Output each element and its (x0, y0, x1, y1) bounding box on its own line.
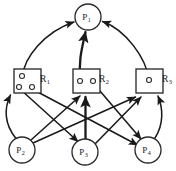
graph-canvas: R1R2R3 P1P2P3P4 (0, 0, 176, 171)
edge-p4-r3 (155, 96, 162, 138)
resources-layer: R1R2R3 (14, 69, 172, 93)
resource-node-r1: R1 (14, 69, 50, 93)
instance-dot (78, 79, 83, 84)
resource-node-r3: R3 (136, 69, 172, 93)
process-node-p1: P1 (75, 4, 101, 30)
edge-r1-p1 (23, 22, 75, 77)
edge-p2-r1 (6, 95, 16, 139)
process-node-p3: P3 (72, 139, 98, 165)
resource-label: R1 (40, 74, 50, 85)
instance-dot (147, 78, 152, 83)
instance-dot (20, 74, 25, 79)
instance-dot (30, 85, 35, 90)
edge-r2-p4 (94, 84, 141, 139)
instance-dot (17, 85, 22, 90)
process-node-p2: P2 (9, 137, 35, 163)
resource-node-r2: R2 (73, 69, 109, 93)
resource-allocation-graph: R1R2R3 P1P2P3P4 (0, 0, 176, 171)
resource-label: R3 (162, 74, 172, 85)
resource-label: R2 (99, 74, 109, 85)
process-node-p4: P4 (135, 137, 161, 163)
instance-dot (91, 79, 96, 84)
